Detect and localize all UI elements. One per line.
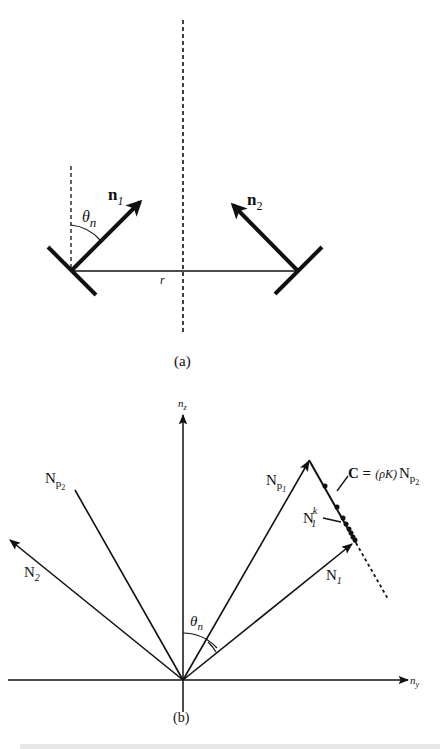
axis-ny-label: ny	[410, 674, 420, 689]
constraint-label-leader	[337, 476, 348, 491]
vector-N1	[183, 544, 352, 680]
axis-nz-label: nz	[178, 397, 188, 412]
vector-n2-label: n2	[247, 190, 262, 213]
iterate-point	[344, 522, 349, 527]
figure-canvas: r n1 θn n2 (a) nz ny Np2 N2 Np1 N1	[0, 0, 444, 749]
constraint-label: C =(ρK)Np2	[348, 465, 419, 487]
vector-N2-label: N2	[24, 564, 40, 583]
vector-n2-arrow	[233, 205, 297, 270]
vector-N2	[10, 540, 183, 680]
iterate-point	[323, 484, 328, 489]
panel-a-caption: (a)	[174, 353, 191, 370]
vector-Np2	[75, 490, 183, 680]
vector-N1-label: N1	[326, 567, 342, 586]
iterate-point	[353, 538, 358, 543]
panel-b: nz ny Np2 N2 Np1 N1	[8, 397, 420, 726]
vector-Np1-label: Np1	[266, 472, 286, 494]
clipped-caption-text	[20, 744, 440, 749]
panel-a: r n1 θn n2 (a)	[48, 20, 322, 370]
vector-Np1	[183, 461, 309, 680]
vector-Np2-label: Np2	[45, 470, 65, 492]
vector-n1-label: n1	[108, 185, 123, 208]
iterate-label: Nk1	[303, 505, 318, 529]
panel-b-caption: (b)	[173, 710, 190, 726]
distance-label-r: r	[160, 273, 165, 287]
iterate-label-leader	[323, 518, 341, 522]
iterate-point	[341, 516, 346, 521]
iterate-point	[335, 505, 340, 510]
angle-label-theta: θn	[190, 613, 203, 632]
constraint-line-extension	[356, 543, 388, 599]
angle-label-theta: θn	[82, 208, 96, 230]
